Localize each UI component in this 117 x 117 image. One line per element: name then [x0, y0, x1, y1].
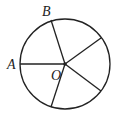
- label-o: O: [51, 68, 61, 83]
- radius-upper-right: [65, 38, 101, 64]
- label-a: A: [6, 57, 16, 72]
- radius-lower-right: [65, 64, 101, 91]
- center-point: [63, 62, 67, 66]
- label-b: B: [42, 4, 51, 19]
- circle-diagram: A B O: [0, 0, 117, 117]
- radius-ob: [51, 20, 65, 64]
